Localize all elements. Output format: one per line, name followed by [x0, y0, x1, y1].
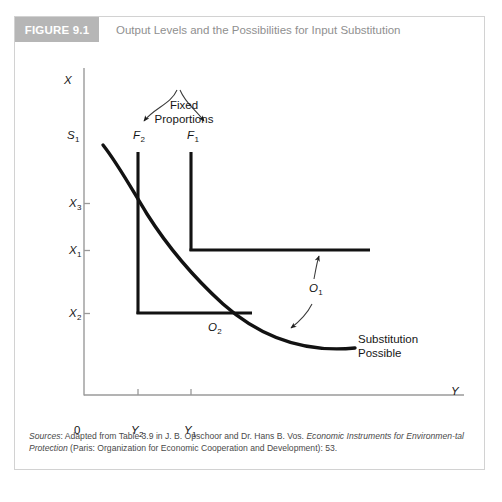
o1-arrow-up [314, 256, 319, 279]
curve-label-f2: F2 [133, 129, 144, 143]
annotation-substitution-line1: Substitution [358, 333, 418, 347]
curve-label-o1-sub: 1 [318, 288, 322, 297]
tick-label-x2-sub: 2 [77, 313, 81, 322]
annotation-fixed-proportions-line2: Proportions [144, 113, 224, 127]
curve-label-f2-sub: 2 [140, 135, 144, 144]
annotation-substitution-possible: Substitution Possible [358, 333, 418, 360]
tick-label-x3-sub: 3 [77, 203, 81, 212]
substitution-possible-curve [103, 145, 355, 349]
x-axis-label: X [64, 74, 72, 88]
curve-label-f1-base: F [187, 129, 194, 141]
annotation-substitution-line2: Possible [358, 347, 418, 361]
source-note: Sources: Adapted from Table 3.9 in J. B.… [29, 430, 470, 455]
annotation-fixed-proportions: Fixed Proportions [144, 99, 224, 126]
tick-label-x2: X2 [69, 307, 81, 321]
tick-label-x1-base: X [69, 244, 77, 256]
figure-container: FIGURE 9.1 Output Levels and the Possibi… [0, 0, 502, 502]
isoquant-f1 [190, 152, 371, 251]
figure-header: FIGURE 9.1 Output Levels and the Possibi… [15, 17, 484, 42]
curve-label-o1-base: O [309, 282, 318, 294]
curve-label-o2: O2 [208, 321, 221, 335]
tick-label-x2-base: X [69, 307, 77, 319]
chart-canvas: X Y 0 X3 X1 X2 Y2 Y1 S1 F2 F1 O1 O2 Fixe… [14, 42, 485, 412]
isoquant-f2 [137, 152, 253, 314]
curve-label-o2-sub: 2 [217, 327, 221, 336]
o1-arrow-down [291, 304, 312, 328]
annotation-fixed-proportions-line1: Fixed [144, 99, 224, 113]
source-note-part2: (Paris: Organization for Economic Cooper… [68, 443, 337, 453]
tick-label-x3-base: X [69, 197, 77, 209]
curve-label-f1: F1 [187, 129, 198, 143]
source-note-part1: : Adapted from Table 3.9 in J. B. Opscho… [61, 431, 307, 441]
curve-label-s1: S1 [67, 129, 79, 143]
tick-label-x1: X1 [69, 244, 81, 258]
source-note-italic1: Economic Instruments for Environmen- [306, 431, 455, 441]
curve-label-s1-sub: 1 [75, 135, 79, 144]
figure-number-badge: FIGURE 9.1 [15, 17, 99, 42]
source-note-label: Sources [29, 431, 61, 441]
y-axis-label: Y [451, 385, 459, 399]
page-title: Output Levels and the Possibilities for … [99, 17, 484, 42]
curve-label-o1: O1 [309, 282, 322, 296]
curve-label-o2-base: O [208, 321, 217, 333]
curve-label-f2-base: F [133, 129, 140, 141]
curve-label-s1-base: S [67, 129, 75, 141]
curve-label-f1-sub: 1 [194, 135, 198, 144]
tick-label-x1-sub: 1 [77, 250, 81, 259]
tick-label-x3: X3 [69, 197, 81, 211]
